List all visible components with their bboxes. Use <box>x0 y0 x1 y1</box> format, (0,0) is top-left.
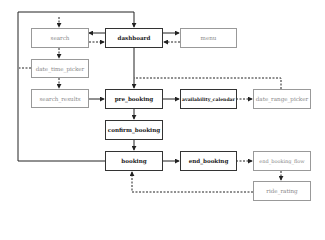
node-end-booking-flow: end_booking_flow <box>253 151 311 171</box>
node-end-booking-label: end_booking <box>189 158 229 164</box>
node-dashboard-label: dashboard <box>118 35 151 41</box>
node-date-range-picker-label: date_range_picker <box>256 96 308 102</box>
node-date-time-picker: date_time_picker <box>31 59 89 78</box>
node-ride-rating-label: ride_rating <box>266 188 297 194</box>
node-booking-label: booking <box>121 158 146 164</box>
node-menu-label: menu <box>201 35 217 41</box>
node-end-booking: end_booking <box>180 151 237 171</box>
node-availability-calendar: availability_calendar <box>180 89 237 109</box>
node-ride-rating: ride_rating <box>253 181 311 201</box>
node-search-results-label: search_results <box>39 96 80 102</box>
node-availability-calendar-label: availability_calendar <box>182 97 235 102</box>
node-booking: booking <box>105 151 163 171</box>
edge-date-range-pre-booking <box>134 78 281 89</box>
edge-ride-rating-booking <box>132 172 253 192</box>
node-search-results: search_results <box>31 89 89 108</box>
node-menu: menu <box>180 28 237 48</box>
node-search-label: search <box>51 35 70 41</box>
node-pre-booking: pre_booking <box>105 89 163 109</box>
node-confirm-booking: confirm_booking <box>105 120 163 140</box>
node-search: search <box>31 28 89 48</box>
node-date-time-picker-label: date_time_picker <box>36 66 85 72</box>
node-date-range-picker: date_range_picker <box>253 89 311 109</box>
node-confirm-booking-label: confirm_booking <box>108 127 160 133</box>
node-pre-booking-label: pre_booking <box>115 96 154 102</box>
node-dashboard: dashboard <box>105 28 163 48</box>
node-end-booking-flow-label: end_booking_flow <box>259 158 304 164</box>
